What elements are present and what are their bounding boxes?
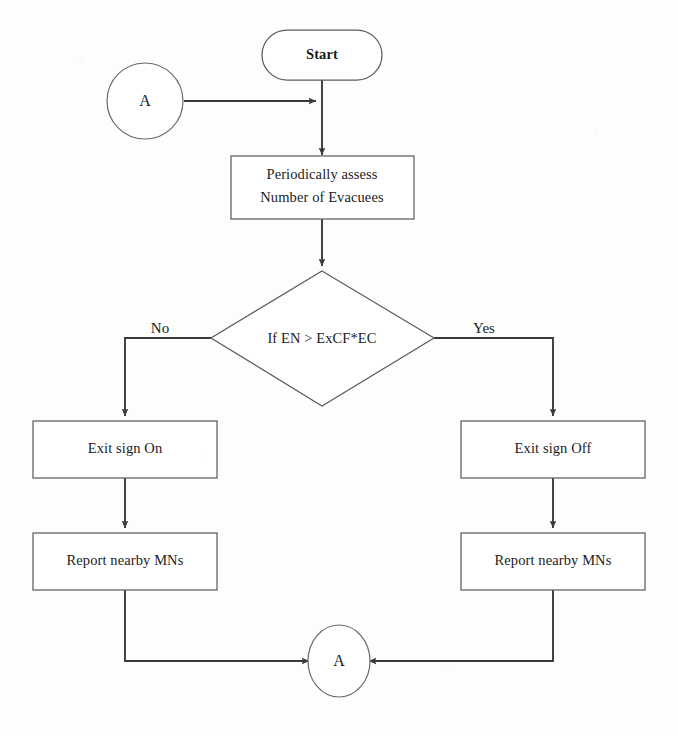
node-exit-sign-on[interactable]: Exit sign On <box>33 421 217 478</box>
node-assess-label-line2: Number of Evacuees <box>260 189 384 205</box>
node-connector-in[interactable]: A <box>107 63 183 139</box>
node-exit-sign-off[interactable]: Exit sign Off <box>461 421 645 478</box>
flowchart-canvas: Start A Periodically assess Number of Ev… <box>0 0 678 736</box>
flowchart-page: Start A Periodically assess Number of Ev… <box>0 0 678 736</box>
node-connector-out[interactable]: A <box>308 625 370 697</box>
edge-report-right-to-connector-out <box>369 590 553 661</box>
node-assess-label-line1: Periodically assess <box>266 166 377 182</box>
edge-report-left-to-connector-out <box>125 590 309 661</box>
node-connector-out-label: A <box>333 652 345 669</box>
edge-decision-yes-to-exit-sign-off <box>434 338 553 416</box>
node-start-label: Start <box>306 46 338 62</box>
branch-label-no: No <box>151 320 169 336</box>
node-decision-label: If EN > ExCF*EC <box>267 330 376 346</box>
edge-decision-no-to-exit-sign-on <box>125 338 211 416</box>
node-report-right-label: Report nearby MNs <box>495 552 612 568</box>
node-exit-sign-off-label: Exit sign Off <box>515 440 592 456</box>
node-start[interactable]: Start <box>262 30 382 80</box>
branch-label-yes: Yes <box>473 320 495 336</box>
node-assess[interactable]: Periodically assess Number of Evacuees <box>231 156 414 219</box>
node-decision[interactable]: If EN > ExCF*EC <box>211 271 434 406</box>
node-report-left-label: Report nearby MNs <box>67 552 184 568</box>
node-connector-in-label: A <box>139 92 151 109</box>
node-exit-sign-on-label: Exit sign On <box>88 440 163 456</box>
node-report-right[interactable]: Report nearby MNs <box>461 533 645 590</box>
node-report-left[interactable]: Report nearby MNs <box>33 533 217 590</box>
